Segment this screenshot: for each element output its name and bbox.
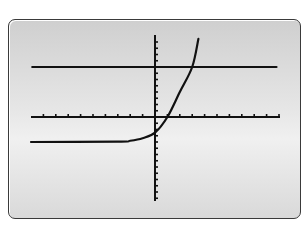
graph-plot (0, 0, 303, 227)
exponential-curve (31, 39, 198, 142)
axes (31, 35, 280, 201)
curves (31, 39, 277, 142)
